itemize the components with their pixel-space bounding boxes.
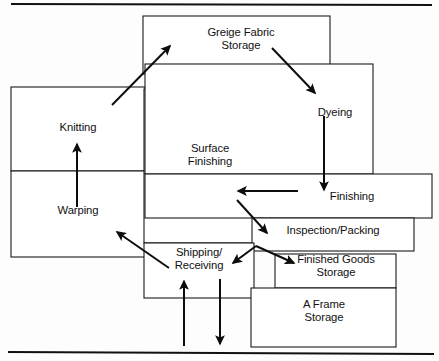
area-label-finishing: Finishing — [310, 190, 394, 203]
area-label-a-frame-storage: A Frame Storage — [275, 298, 373, 324]
area-label-finished-goods-storage: Finished Goods Storage — [277, 253, 395, 279]
area-label-shipping-receiving: Shipping/ Receiving — [159, 246, 239, 272]
diagram-canvas — [0, 0, 439, 361]
area-label-warping: Warping — [33, 204, 123, 217]
area-label-dyeing: Dyeing — [296, 106, 374, 119]
top-rule — [11, 4, 432, 5]
area-label-knitting: Knitting — [35, 121, 121, 134]
area-label-surface-finishing: Surface Finishing — [166, 142, 254, 168]
area-label-greige-fabric-storage: Greige Fabric Storage — [186, 26, 296, 52]
bottom-rule — [8, 352, 434, 354]
area-label-inspection-packing: Inspection/Packing — [255, 224, 411, 237]
process-flow-diagram: Greige Fabric StorageKnittingWarpingSurf… — [0, 0, 439, 361]
